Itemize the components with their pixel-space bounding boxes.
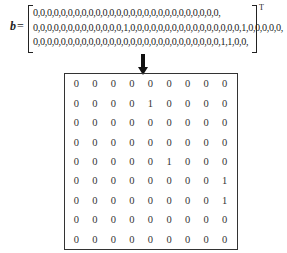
grid-cell: 0 [178,93,197,112]
grid-cell: 0 [123,93,142,112]
grid-cell: 0 [67,113,86,132]
arrow-shaft [141,54,145,68]
grid-cell: 0 [197,93,216,112]
equation-label: b= [10,19,24,34]
grid-cell: 0 [178,210,197,229]
grid-cell: 0 [215,230,234,249]
grid-cell: 0 [160,230,179,249]
vector-row-3: 0,0,0,0,0,0,0,0,0,0,0,0,0,0,0,0,0,0,0,0,… [33,35,253,50]
grid-cell: 0 [178,191,197,210]
grid-cell: 0 [104,191,123,210]
grid-cell: 0 [104,113,123,132]
transpose-superscript: T [259,3,264,12]
right-bracket [252,5,257,53]
down-arrow-icon [138,54,148,75]
grid-cell: 1 [215,191,234,210]
grid-cell: 1 [141,93,160,112]
grid-cell: 0 [160,171,179,190]
grid-cell: 0 [197,74,216,93]
grid-cell: 0 [141,152,160,171]
grid-cell: 0 [86,191,105,210]
vector-rows: 0,0,0,0,0,0,0,0,0,0,0,0,0,0,0,0,0,0,0,0,… [33,6,253,50]
grid-cell: 0 [178,74,197,93]
grid-cell: 0 [104,152,123,171]
grid-cell: 0 [141,210,160,229]
grid-cell: 1 [215,171,234,190]
grid-cell: 0 [67,132,86,151]
grid-cell: 0 [178,152,197,171]
grid-cell: 0 [160,74,179,93]
grid-cell: 0 [197,191,216,210]
grid-cell: 0 [123,171,142,190]
grid-cell: 0 [123,152,142,171]
grid-cell: 0 [197,132,216,151]
grid-cell: 0 [197,152,216,171]
grid-cell: 0 [67,152,86,171]
grid-cell: 0 [104,171,123,190]
grid-cell: 0 [215,152,234,171]
grid-cell: 0 [197,113,216,132]
grid-cell: 0 [197,171,216,190]
vector-row-1: 0,0,0,0,0,0,0,0,0,0,0,0,0,0,0,0,0,0,0,0,… [33,6,253,21]
grid-cell: 0 [215,93,234,112]
grid-cell: 0 [178,171,197,190]
vector-row-2: 0,0,0,0,0,0,0,0,0,0,0,0,0,1,0,0,0,0,0,0,… [33,21,253,36]
grid-cell: 0 [104,210,123,229]
grid-cell: 0 [86,210,105,229]
grid-cell: 0 [86,230,105,249]
grid-cell: 0 [197,230,216,249]
grid-cell: 0 [160,210,179,229]
grid-cell: 0 [86,74,105,93]
grid-cell: 0 [86,171,105,190]
equals-sign: = [17,19,24,33]
vector-symbol: b [10,19,16,33]
grid-cell: 0 [141,113,160,132]
grid-cell: 0 [178,113,197,132]
grid-cell: 0 [86,152,105,171]
grid-cell: 0 [123,113,142,132]
grid-cell: 0 [86,132,105,151]
grid-cell: 0 [123,210,142,229]
grid-cell: 0 [160,132,179,151]
grid-cell: 1 [160,152,179,171]
grid-cell: 0 [160,93,179,112]
grid-cell: 0 [104,74,123,93]
grid-cell: 0 [197,210,216,229]
grid-cell: 0 [86,93,105,112]
grid-cell: 0 [67,230,86,249]
grid-cell: 0 [141,230,160,249]
grid-cell: 0 [160,191,179,210]
grid-cell: 0 [215,74,234,93]
grid-cell: 0 [215,210,234,229]
grid-cell: 0 [123,74,142,93]
grid-cell: 0 [123,230,142,249]
grid-cell: 0 [123,191,142,210]
grid-cell: 0 [123,132,142,151]
grid-cell: 0 [104,132,123,151]
grid-cell: 0 [67,191,86,210]
grid-cell: 0 [67,93,86,112]
grid-cell: 0 [178,132,197,151]
binary-grid: 0000000000000100000000000000000000000000… [64,73,238,250]
grid-cell: 0 [178,230,197,249]
grid-cell: 0 [160,113,179,132]
grid-cell: 0 [67,74,86,93]
grid-cell: 0 [86,113,105,132]
grid-cell: 0 [215,113,234,132]
grid-cells: 0000000000000100000000000000000000000000… [65,74,237,249]
grid-cell: 0 [67,171,86,190]
grid-cell: 0 [67,210,86,229]
grid-cell: 0 [104,230,123,249]
grid-cell: 0 [215,132,234,151]
grid-cell: 0 [141,132,160,151]
grid-cell: 0 [141,171,160,190]
grid-cell: 0 [104,93,123,112]
grid-cell: 0 [141,74,160,93]
grid-cell: 0 [141,191,160,210]
